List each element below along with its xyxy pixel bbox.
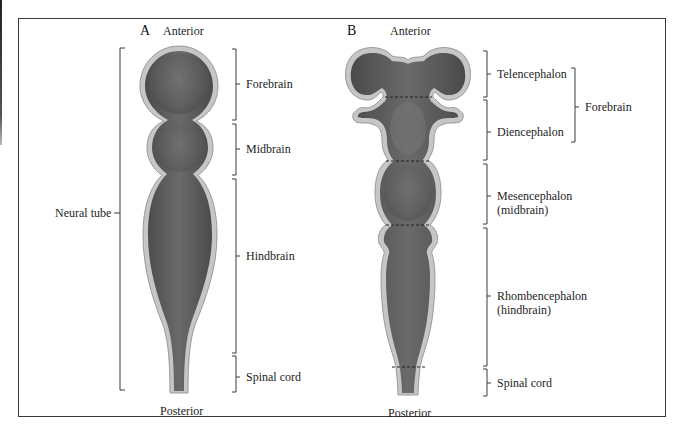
label-rhombencephalon-sub: (hindbrain) bbox=[497, 304, 551, 317]
panel-a-neural-tube bbox=[114, 46, 240, 393]
label-spinal-cord-b: Spinal cord bbox=[497, 377, 552, 390]
label-diencephalon: Diencephalon bbox=[497, 126, 564, 139]
label-mesencephalon: Mesencephalon bbox=[497, 190, 572, 203]
neural-tube-label: Neural tube bbox=[55, 207, 111, 220]
label-midbrain-a: Midbrain bbox=[246, 143, 291, 156]
panel-b-posterior-label: Posterior bbox=[388, 407, 431, 420]
neural-tube-bracket bbox=[120, 48, 125, 390]
panel-b-brain-vesicles bbox=[346, 48, 579, 396]
label-mesencephalon-sub: (midbrain) bbox=[497, 204, 548, 217]
label-forebrain-a: Forebrain bbox=[246, 78, 293, 91]
panel-b-region-brackets bbox=[483, 51, 579, 396]
panel-b-letter: B bbox=[347, 24, 356, 38]
panel-a-region-brackets bbox=[232, 49, 240, 392]
label-forebrain-group: Forebrain bbox=[585, 101, 632, 114]
label-telencephalon: Telencephalon bbox=[497, 68, 567, 81]
panel-a-posterior-label: Posterior bbox=[160, 405, 203, 418]
label-hindbrain-a: Hindbrain bbox=[246, 250, 295, 263]
label-rhombencephalon: Rhombencephalon bbox=[497, 290, 587, 303]
label-spinal-cord-a: Spinal cord bbox=[246, 371, 301, 384]
panel-a-anterior-label: Anterior bbox=[163, 25, 204, 38]
panel-b-anterior-label: Anterior bbox=[390, 25, 431, 38]
panel-a-letter: A bbox=[140, 24, 150, 38]
